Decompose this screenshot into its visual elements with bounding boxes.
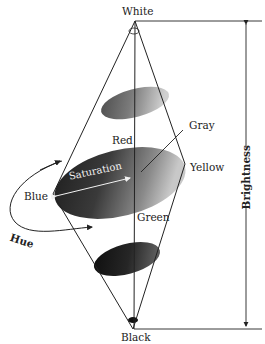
blue-label: Blue <box>24 191 48 202</box>
brightness-label: Brightness <box>241 145 252 209</box>
gray-axis <box>134 21 135 329</box>
double-cone-drawing <box>0 0 265 344</box>
black-label: Black <box>121 332 151 343</box>
middle-hue-ellipse <box>47 135 193 231</box>
color-space-diagram: White Black Red Gray Yellow Blue Green S… <box>0 0 265 344</box>
green-label: Green <box>137 212 170 223</box>
white-label: White <box>122 6 153 17</box>
yellow-label: Yellow <box>190 162 224 173</box>
gray-label: Gray <box>189 120 215 131</box>
red-label: Red <box>112 135 133 146</box>
